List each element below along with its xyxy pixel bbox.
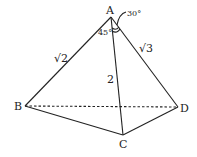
angle-label-30: 30° (127, 9, 141, 18)
edge-ad (111, 17, 178, 107)
vertex-label-b: B (14, 100, 22, 113)
edge-label-ac: 2 (107, 73, 114, 86)
angle-arc-30 (112, 27, 119, 29)
pointer-30-leader (117, 12, 126, 25)
tetrahedron-diagram: A B C D √2 2 √3 45° 30° (0, 0, 197, 157)
edge-label-ab: √2 (54, 52, 68, 65)
edge-bc (25, 106, 123, 135)
angle-label-45: 45° (98, 28, 112, 37)
vertex-label-d: D (180, 102, 189, 115)
vertex-label-a: A (105, 4, 115, 17)
vertex-label-c: C (119, 138, 127, 151)
edge-cd (123, 107, 178, 135)
edge-label-ad: √3 (139, 42, 153, 55)
edge-bd-hidden (25, 106, 178, 107)
